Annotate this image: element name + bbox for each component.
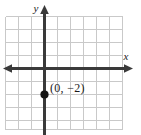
coordinate-plane-figure: y x (0, −2) bbox=[0, 0, 141, 135]
x-axis-label: x bbox=[123, 50, 129, 62]
y-axis-up-arrowhead bbox=[40, 5, 49, 14]
grid-lines bbox=[6, 17, 123, 130]
plotted-point-marker bbox=[40, 90, 48, 98]
x-axis-left-arrowhead bbox=[3, 64, 12, 73]
axes bbox=[3, 5, 133, 135]
graph-canvas: y x (0, −2) bbox=[0, 0, 141, 135]
point-coordinate-label: (0, −2) bbox=[50, 81, 85, 95]
y-axis-label: y bbox=[33, 2, 39, 14]
x-axis-right-arrowhead bbox=[124, 64, 133, 73]
